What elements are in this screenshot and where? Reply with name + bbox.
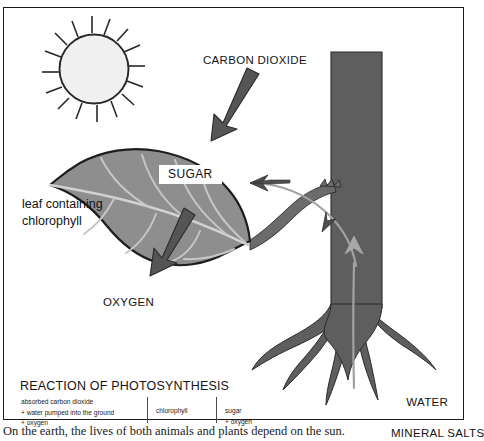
label-water: WATER bbox=[406, 396, 448, 408]
label-sugar: SUGAR bbox=[159, 165, 222, 184]
page-caption: On the earth, the lives of both animals … bbox=[3, 424, 467, 441]
reaction-products: sugar + oxygen bbox=[225, 397, 285, 427]
label-oxygen: OXYGEN bbox=[103, 296, 154, 310]
sun-icon bbox=[42, 16, 145, 122]
arrow-down-icon bbox=[211, 68, 259, 141]
reaction-divider-2 bbox=[216, 397, 217, 423]
reaction-title: REACTION OF PHOTOSYNTHESIS bbox=[20, 379, 229, 393]
label-carbon-dioxide: CARBON DIOXIDE bbox=[203, 54, 307, 68]
diagram-frame: CARBON DIOXIDE OXYGEN SUGAR leaf contain… bbox=[3, 7, 464, 420]
reaction-catalyst: chlorophyll bbox=[156, 397, 208, 417]
tree-roots-icon bbox=[252, 304, 436, 405]
label-leaf-containing-chlorophyll: leaf containing chlorophyll bbox=[22, 196, 103, 230]
reaction-divider-1 bbox=[147, 397, 148, 423]
